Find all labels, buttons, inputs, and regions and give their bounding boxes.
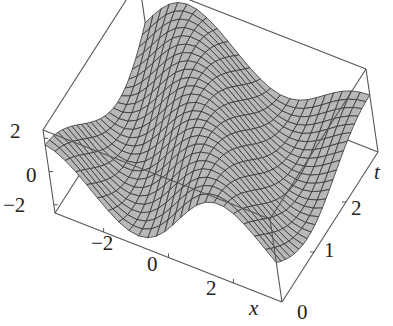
z-tick: 0 — [26, 165, 37, 186]
x-tick: 0 — [147, 254, 158, 275]
t-tick: 1 — [324, 240, 335, 261]
t-tick: 2 — [351, 198, 362, 219]
t-axis-label: t — [374, 162, 380, 183]
x-axis-label: x — [249, 298, 258, 319]
surface-plot — [0, 0, 393, 326]
x-tick: 2 — [206, 278, 217, 299]
t-tick: 0 — [297, 302, 308, 323]
x-tick: −2 — [91, 233, 113, 254]
surface-mesh — [45, 2, 370, 262]
z-tick: 2 — [10, 121, 21, 142]
z-tick: −2 — [3, 195, 25, 216]
